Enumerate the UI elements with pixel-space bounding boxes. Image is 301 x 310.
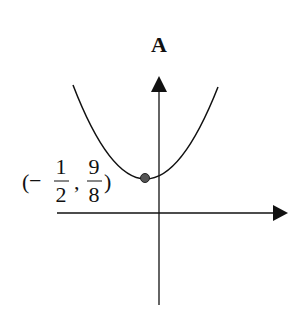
label-y-numerator: 9 <box>89 154 100 179</box>
graph: A ( − 1 2 , 9 8 ) <box>0 0 301 310</box>
label-x-denominator: 2 <box>56 182 67 207</box>
figure-title: A <box>151 32 167 57</box>
label-x-numerator: 1 <box>56 154 67 179</box>
y-axis-arrow-icon <box>151 76 167 92</box>
x-axis-arrow-icon <box>273 205 288 221</box>
label-y-denominator: 8 <box>89 182 100 207</box>
label-close-paren: ) <box>104 169 111 194</box>
label-minus: − <box>29 168 41 193</box>
label-comma: , <box>74 169 80 194</box>
vertex-point <box>141 174 150 183</box>
parabola-figure: A ( − 1 2 , 9 8 ) <box>0 0 301 310</box>
vertex-label: ( − 1 2 , 9 8 ) <box>22 154 111 207</box>
